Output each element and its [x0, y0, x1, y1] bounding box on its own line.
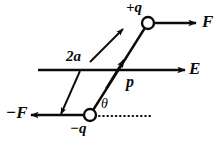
force-positive-label: F [202, 13, 213, 30]
separation-arrow-upper [90, 29, 123, 62]
separation-arrow-lower [61, 71, 80, 114]
force-negative-label: −F [6, 104, 28, 121]
dipole-moment-label: p [126, 74, 134, 90]
positive-charge-marker [142, 17, 154, 29]
positive-charge-label: +q [126, 0, 142, 15]
diagram-canvas [0, 0, 221, 144]
angle-label: θ [101, 97, 108, 111]
dipole-moment-vector [106, 60, 124, 89]
field-label: E [189, 60, 200, 77]
dipole-diagram: F −F E +q −q p 2a θ [0, 0, 221, 144]
negative-charge-label: −q [70, 121, 87, 136]
separation-label: 2a [66, 49, 81, 64]
